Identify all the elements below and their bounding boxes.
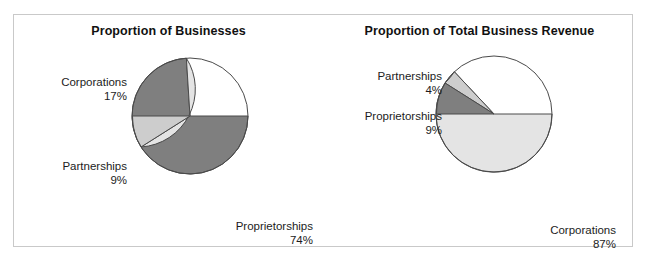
pie-label-revenue-partnerships: Partnerships 4%: [342, 70, 442, 97]
pie-label-name: Partnerships: [62, 160, 127, 172]
pie-chart-businesses: [130, 56, 250, 176]
pie-label-name: Proprietorships: [365, 110, 442, 122]
pie-label-value: 87%: [492, 238, 616, 252]
pie-label-revenue-proprietorships: Proprietorships 9%: [324, 110, 442, 137]
pie-label-businesses-proprietorships: Proprietorships 74%: [189, 220, 313, 247]
pie-label-name: Partnerships: [377, 70, 442, 82]
pie-label-businesses-partnerships: Partnerships 9%: [27, 160, 127, 187]
pie-label-value: 9%: [324, 124, 442, 138]
chart-title-revenue: Proportion of Total Business Revenue: [324, 24, 635, 38]
chart-panel-businesses: Proportion of Businesses Corporations 17…: [13, 14, 324, 247]
pie-label-name: Corporations: [550, 224, 616, 236]
pie-label-value: 74%: [189, 234, 313, 248]
pie-label-value: 4%: [342, 84, 442, 98]
pie-label-revenue-corporations: Corporations 87%: [492, 224, 616, 251]
figure-canvas: Proportion of Businesses Corporations 17…: [0, 0, 647, 266]
chart-panel-revenue: Proportion of Total Business Revenue Par…: [324, 14, 635, 247]
chart-title-businesses: Proportion of Businesses: [13, 24, 324, 38]
pie-svg-businesses: [130, 56, 250, 176]
pie-chart-revenue: [434, 54, 554, 174]
pie-label-value: 17%: [35, 90, 127, 104]
pie-svg-revenue: [434, 54, 554, 174]
pie-label-value: 9%: [27, 174, 127, 188]
pie-label-name: Proprietorships: [236, 220, 313, 232]
pie-label-businesses-corporations: Corporations 17%: [35, 76, 127, 103]
pie-label-name: Corporations: [61, 76, 127, 88]
